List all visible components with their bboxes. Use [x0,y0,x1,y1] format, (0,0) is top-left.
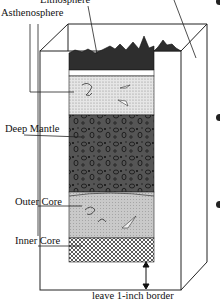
label-inner-core: Inner Core [15,236,60,247]
asthenosphere-layer [69,76,154,115]
label-border-note: leave 1-inch border [92,291,174,302]
label-lithosphere: Lithosphere [40,0,90,6]
bullet-1 [216,0,220,5]
earth-layers-box-diagram [0,0,220,302]
deep-mantle-layer [69,115,154,192]
label-outer-core: Outer Core [15,197,62,208]
lithosphere-layer [69,36,154,70]
border-arrow [143,262,149,289]
bullet-2 [216,114,220,121]
lithosphere-right-peaks [154,40,181,51]
label-asthenosphere: Asthenosphere [1,8,63,19]
inner-core-layer [69,238,154,262]
bullet-3 [216,201,220,208]
label-deep-mantle: Deep Mantle [5,124,60,135]
outer-core-layer [69,192,154,238]
